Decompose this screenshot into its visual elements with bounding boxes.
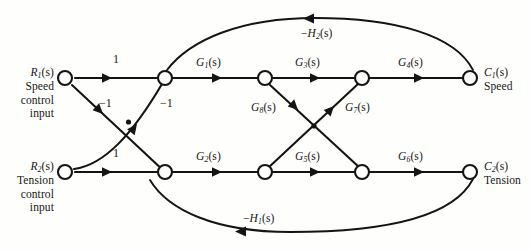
label-r1-desc-3: input [0,107,54,121]
label-gain-neg-one-left: −1 [99,96,112,110]
label-gain-unity-top: 1 [113,52,119,66]
label-c2-symbol: C2(s) [484,160,531,174]
arrowhead-c1-to-n1-feedback [303,13,314,23]
node-c1[interactable] [463,71,477,85]
node-c2[interactable] [463,165,477,179]
node-n5-g2-out[interactable] [258,165,272,179]
node-n2-g1-out[interactable] [258,71,272,85]
label-r2-symbol: R2(s) [0,160,54,174]
signal-flow-graph-figure: R1(s) Speed control input R2(s) Tension … [0,0,531,250]
node-n4-summing-tension[interactable] [158,165,172,179]
label-gain-g1: G1(s) [196,56,221,70]
label-r1-desc-1: Speed [0,80,54,94]
label-gain-h1: −H1(s) [243,212,274,226]
label-r2-desc-2: control [0,188,54,202]
label-gain-g4: G4(s) [398,56,423,70]
arrowhead-n5-to-n6 [310,167,320,177]
label-r2-terminal: R2(s) Tension control input [0,160,54,215]
label-gain-g8: G8(s) [251,101,276,115]
center-crossing-dot [311,123,316,128]
arrowhead-r2-to-n4 [102,167,112,177]
label-c2-desc: Tension [484,174,531,188]
arrowhead-r1-to-n1 [102,73,112,83]
label-gain-g5: G5(s) [295,150,320,164]
label-c1-terminal: C1(s) Speed [484,66,530,94]
arrowhead-n2-to-n6 [288,99,298,110]
label-r1-terminal: R1(s) Speed control input [0,66,54,121]
edge-c2-to-n4-feedback [150,179,473,232]
label-gain-h2: −H2(s) [301,27,332,41]
label-gain-g7: G7(s) [345,101,370,115]
label-c2-terminal: C2(s) Tension [484,160,531,188]
arrowhead-n6-to-c2 [414,167,424,177]
arrowhead-n2-to-n3 [310,73,320,83]
label-c1-desc: Speed [484,80,530,94]
label-gain-neg-one-right: −1 [160,96,173,110]
label-r2-desc-3: input [0,201,54,215]
label-r2-desc-1: Tension [0,174,54,188]
label-gain-unity-bottom: 1 [113,146,119,160]
label-r1-symbol: R1(s) [0,66,54,80]
node-r1[interactable] [58,71,72,85]
node-n1-summing-speed[interactable] [158,71,172,85]
arrowhead-n3-to-c1 [414,73,424,83]
left-crossing-dot [126,119,131,124]
label-gain-g6: G6(s) [398,150,423,164]
arrowhead-n1-to-n2 [212,73,222,83]
node-r2[interactable] [58,165,72,179]
label-gain-g2: G2(s) [196,150,221,164]
label-c1-symbol: C1(s) [484,66,530,80]
arrowhead-n4-to-n5 [212,167,222,177]
label-gain-g3: G3(s) [295,56,320,70]
label-r1-desc-2: control [0,94,54,108]
node-n6-g5-out[interactable] [355,165,369,179]
node-n3-g3-out[interactable] [355,71,369,85]
